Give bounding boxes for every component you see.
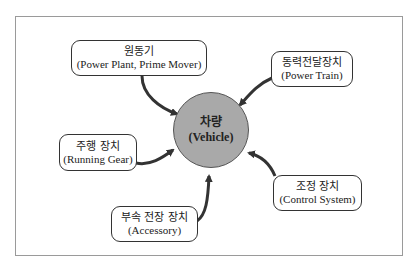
node-power-train: 동력전달장치 (Power Train) <box>271 51 353 87</box>
node-label-ko: 부속 전장 장치 <box>121 211 188 224</box>
node-label-en: (Power Train) <box>281 69 342 82</box>
node-label-ko: 주행 장치 <box>76 140 120 153</box>
vehicle-node: 차량 (Vehicle) <box>173 92 249 168</box>
vehicle-label-en: (Vehicle) <box>189 130 234 145</box>
arrow-power-train <box>240 78 272 105</box>
node-accessory: 부속 전장 장치 (Accessory) <box>111 206 198 242</box>
arrow-accessory <box>197 176 209 221</box>
node-label-ko: 동력전달장치 <box>282 56 342 69</box>
node-power-plant: 원동기 (Power Plant, Prime Mover) <box>71 40 207 76</box>
node-label-ko: 원동기 <box>124 45 154 58</box>
node-control-system: 조정 장치 (Control System) <box>273 175 362 211</box>
node-label-en: (Running Gear) <box>63 153 132 166</box>
vehicle-label-ko: 차량 <box>200 115 222 130</box>
node-label-en: (Control System) <box>279 193 355 206</box>
node-label-en: (Power Plant, Prime Mover) <box>77 58 202 71</box>
arrow-power-plant <box>142 76 177 114</box>
node-label-en: (Accessory) <box>128 224 181 237</box>
node-label-ko: 조정 장치 <box>296 180 340 193</box>
arrow-running-gear <box>136 150 173 164</box>
node-running-gear: 주행 장치 (Running Gear) <box>59 134 137 171</box>
arrow-control-system <box>249 153 275 176</box>
